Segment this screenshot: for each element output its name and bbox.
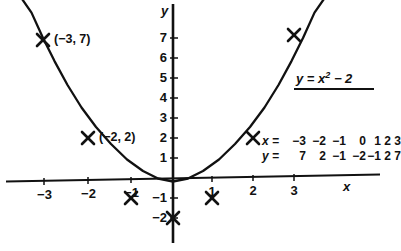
value-table-row-y: y =72−1−2−127 — [262, 149, 401, 164]
value-table-x-0: −3 — [288, 134, 306, 149]
value-table-y-4: −1 — [366, 149, 381, 164]
value-table-x-6: 3 — [391, 134, 401, 149]
y-tick-label-5: 5 — [155, 71, 167, 84]
marker-3-7 — [288, 29, 300, 41]
y-tick-label-neg2: −2 — [146, 211, 167, 224]
x-tick-label-neg1: −1 — [121, 186, 142, 199]
annotation-point-neg2-2: (−2, 2) — [99, 131, 135, 144]
y-tick-label-3: 3 — [155, 111, 167, 124]
value-table-x-3: 0 — [346, 134, 366, 149]
value-table-row-x: x =−3−2−10123 — [262, 134, 401, 149]
value-table-y-2: −1 — [326, 149, 346, 164]
y-tick-label-neg1: −1 — [146, 191, 167, 204]
value-table-y-0: 7 — [288, 149, 306, 164]
equation-underline — [294, 88, 374, 90]
value-table-x-4: 1 — [366, 134, 381, 149]
y-tick-label-4: 4 — [155, 91, 167, 104]
y-tick-label-2: 2 — [155, 131, 167, 144]
equation-tail: − 2 — [330, 71, 352, 86]
value-table: x =−3−2−10123 y =72−1−2−127 — [262, 134, 401, 164]
marker-2-2 — [247, 132, 259, 144]
value-table-x-1: −2 — [306, 134, 326, 149]
y-tick-label-7: 7 — [155, 31, 167, 44]
x-tick-label-1: 1 — [205, 185, 219, 198]
annotation-point-neg3-7: (−3, 7) — [54, 33, 90, 46]
value-table-y-3: −2 — [346, 149, 366, 164]
value-table-x-5: 2 — [381, 134, 391, 149]
y-tick-label-1: 1 — [155, 151, 167, 164]
x-tick-label-neg2: −2 — [78, 187, 99, 200]
y-tick-label-6: 6 — [155, 51, 167, 64]
value-table-x-head: x = — [262, 134, 288, 149]
equation-label: y = x2 − 2 — [296, 71, 352, 85]
y-axis-label: y — [161, 4, 168, 17]
equation-base: y = x — [296, 71, 325, 86]
value-table-y-5: 2 — [381, 149, 391, 164]
value-table-y-1: 2 — [306, 149, 326, 164]
data-point-markers — [37, 29, 300, 224]
x-tick-label-neg3: −3 — [34, 188, 55, 201]
x-axis-label: x — [343, 180, 350, 193]
value-table-y-6: 7 — [391, 149, 401, 164]
x-tick-label-3: 3 — [287, 184, 301, 197]
value-table-x-2: −1 — [326, 134, 346, 149]
value-table-y-head: y = — [262, 149, 288, 164]
marker-neg2-2 — [82, 132, 94, 144]
x-tick-label-2: 2 — [246, 184, 260, 197]
